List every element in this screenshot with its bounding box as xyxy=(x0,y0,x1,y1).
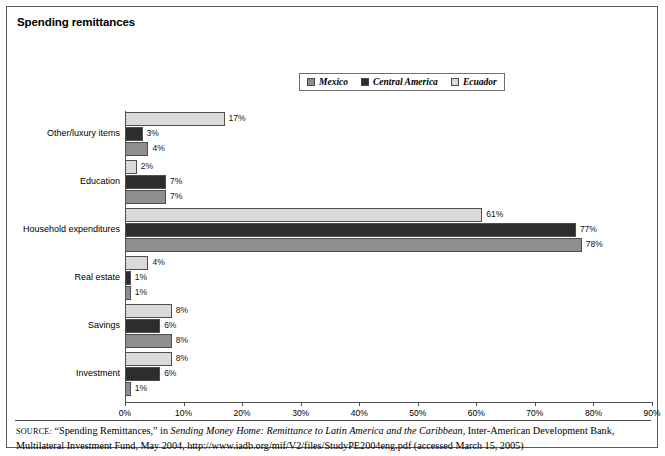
x-axis-tick xyxy=(125,402,126,406)
bar-value-label: 3% xyxy=(147,128,159,138)
bar-mexico xyxy=(125,334,172,348)
page-title: Spending remittances xyxy=(17,16,135,28)
bar-value-label: 7% xyxy=(170,176,182,186)
x-axis-tick-label: 60% xyxy=(468,408,485,418)
bar-central-america xyxy=(125,367,160,381)
source-divider xyxy=(15,420,651,421)
bar-group: Household expenditures61%77%78% xyxy=(125,208,652,253)
bar-row: 8% xyxy=(125,304,652,318)
bar-row: 1% xyxy=(125,271,652,285)
x-axis-tick xyxy=(184,402,185,406)
bar-row: 7% xyxy=(125,190,652,204)
source-prefix: SOURCE: xyxy=(16,427,52,436)
bar-row: 61% xyxy=(125,208,652,222)
bar-value-label: 8% xyxy=(176,353,188,363)
bar-mexico xyxy=(125,190,166,204)
x-axis-tick xyxy=(359,402,360,406)
bar-value-label: 6% xyxy=(164,368,176,378)
bar-row: 2% xyxy=(125,160,652,174)
x-axis-line xyxy=(125,402,652,403)
legend-item-ecuador: Ecuador xyxy=(451,77,497,87)
source-publication-title: Sending Money Home: Remittance to Latin … xyxy=(171,425,463,436)
bar-value-label: 8% xyxy=(176,335,188,345)
legend-swatch-icon xyxy=(307,78,315,86)
x-axis-tick xyxy=(652,402,653,406)
bar-central-america xyxy=(125,175,166,189)
legend-swatch-icon xyxy=(451,78,459,86)
bar-group: Investment8%6%1% xyxy=(125,352,652,397)
x-axis-tick-label: 80% xyxy=(585,408,602,418)
bar-value-label: 4% xyxy=(152,143,164,153)
bar-ecuador xyxy=(125,208,482,222)
x-axis-tick-label: 90% xyxy=(643,408,660,418)
x-axis-tick-label: 40% xyxy=(351,408,368,418)
x-axis-tick xyxy=(535,402,536,406)
bar-ecuador xyxy=(125,256,148,270)
x-axis-tick xyxy=(476,402,477,406)
bar-central-america xyxy=(125,127,143,141)
bar-value-label: 8% xyxy=(176,305,188,315)
x-axis-tick-label: 30% xyxy=(292,408,309,418)
x-axis-tick-label: 20% xyxy=(234,408,251,418)
legend-swatch-icon xyxy=(361,78,369,86)
bar-value-label: 4% xyxy=(152,257,164,267)
bar-group: Real estate4%1%1% xyxy=(125,256,652,301)
chart-plot-area: Other/luxury items17%3%4%Education2%7%7%… xyxy=(125,111,652,402)
bar-central-america xyxy=(125,271,131,285)
bar-row: 4% xyxy=(125,256,652,270)
bar-row: 6% xyxy=(125,319,652,333)
category-label: Investment xyxy=(76,368,120,378)
x-axis-tick xyxy=(418,402,419,406)
bar-row: 77% xyxy=(125,223,652,237)
legend-label: Mexico xyxy=(319,77,348,87)
bar-row: 3% xyxy=(125,127,652,141)
figure-frame: Spending remittances MexicoCentral Ameri… xyxy=(6,6,658,448)
bar-row: 7% xyxy=(125,175,652,189)
bar-value-label: 6% xyxy=(164,320,176,330)
x-axis-tick-label: 0% xyxy=(119,408,131,418)
bar-mexico xyxy=(125,238,582,252)
source-note: SOURCE: “Spending Remittances,” in Sendi… xyxy=(16,424,652,452)
bar-row: 78% xyxy=(125,238,652,252)
category-label: Household expenditures xyxy=(23,224,120,234)
bar-ecuador xyxy=(125,112,225,126)
bar-value-label: 1% xyxy=(135,272,147,282)
bar-value-label: 7% xyxy=(170,191,182,201)
x-axis-tick-label: 70% xyxy=(526,408,543,418)
x-axis-tick-label: 10% xyxy=(175,408,192,418)
bar-value-label: 1% xyxy=(135,287,147,297)
category-label: Savings xyxy=(88,320,120,330)
bar-mexico xyxy=(125,142,148,156)
category-label: Real estate xyxy=(74,272,120,282)
chart-legend: MexicoCentral AmericaEcuador xyxy=(299,73,505,91)
legend-item-central-america: Central America xyxy=(361,77,438,87)
bar-central-america xyxy=(125,223,576,237)
x-axis-tick-label: 50% xyxy=(409,408,426,418)
bar-ecuador xyxy=(125,160,137,174)
legend-item-mexico: Mexico xyxy=(307,77,348,87)
category-label: Other/luxury items xyxy=(47,128,120,138)
legend-label: Central America xyxy=(373,77,438,87)
bar-row: 8% xyxy=(125,352,652,366)
category-label: Education xyxy=(80,176,120,186)
bar-group: Savings8%6%8% xyxy=(125,304,652,349)
bar-value-label: 17% xyxy=(229,113,246,123)
bar-row: 1% xyxy=(125,286,652,300)
bar-group: Education2%7%7% xyxy=(125,160,652,205)
bar-value-label: 61% xyxy=(486,209,503,219)
source-text-lead: “Spending Remittances,” in xyxy=(52,425,171,436)
bar-value-label: 2% xyxy=(141,161,153,171)
bar-central-america xyxy=(125,319,160,333)
bar-value-label: 77% xyxy=(580,224,597,234)
bar-row: 8% xyxy=(125,334,652,348)
x-axis-tick xyxy=(242,402,243,406)
bar-mexico xyxy=(125,286,131,300)
bar-mexico xyxy=(125,382,131,396)
bar-row: 17% xyxy=(125,112,652,126)
bar-row: 1% xyxy=(125,382,652,396)
x-axis-tick xyxy=(593,402,594,406)
x-axis-tick xyxy=(301,402,302,406)
bar-ecuador xyxy=(125,352,172,366)
bar-value-label: 78% xyxy=(586,239,603,249)
bar-value-label: 1% xyxy=(135,383,147,393)
